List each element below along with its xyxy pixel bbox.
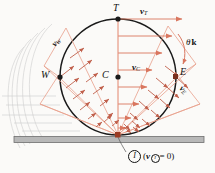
- point-label-W: W: [41, 70, 49, 80]
- marker-W: [57, 74, 62, 79]
- point-label-C: C: [102, 70, 109, 80]
- vector-label-vT: vT: [140, 7, 147, 16]
- marker-C: [115, 74, 120, 79]
- theta-dot-symbol: θ̇: [186, 37, 190, 47]
- rolling-wheel-diagram: T C W E vT vC vW vE θ̇k I ( v I = 0): [0, 0, 215, 173]
- vector-subscript-vT: T: [144, 10, 147, 16]
- ground-surface: [14, 137, 204, 143]
- contact-circled-label: I: [128, 150, 141, 163]
- point-label-E: E: [180, 67, 186, 77]
- horizontal-velocity-arrows: [118, 19, 182, 128]
- marker-T: [115, 16, 120, 21]
- vector-label-vC: vC: [132, 63, 140, 72]
- contact-expression-rest: = 0): [160, 152, 175, 161]
- contact-point-annotation: I ( v I = 0): [128, 150, 174, 163]
- point-label-T: T: [113, 3, 119, 13]
- ghost-arcs: [8, 24, 52, 148]
- contact-v-subscript: I: [151, 154, 160, 163]
- angular-velocity-label: θ̇k: [186, 38, 196, 47]
- marker-E: [173, 74, 178, 79]
- vector-subscript-vC: C: [136, 66, 140, 72]
- contact-v-symbol: v: [146, 152, 150, 161]
- marker-I: [115, 132, 121, 138]
- k-hat-symbol: k: [191, 37, 196, 47]
- angular-velocity-arc: [178, 34, 185, 64]
